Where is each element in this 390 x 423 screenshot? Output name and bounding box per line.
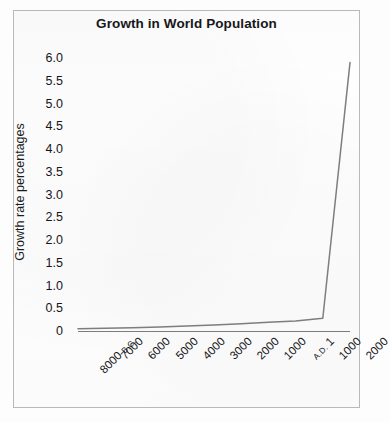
y-tick-label: 1.5: [46, 256, 63, 270]
y-tick-label: 5.0: [46, 97, 63, 111]
y-tick-label: 4.0: [46, 142, 63, 156]
y-tick-label: 2.0: [46, 233, 63, 247]
y-axis-title: Growth rate percentages: [13, 92, 27, 292]
figure-frame: [13, 10, 360, 408]
y-axis-tick-labels: 6.05.55.04.54.03.53.02.52.01.51.00.50: [33, 45, 63, 329]
chart-title: Growth in World Population: [0, 16, 373, 31]
y-tick-label: 6.0: [46, 51, 63, 65]
y-tick-label: 1.0: [46, 279, 63, 293]
y-tick-label: 3.0: [46, 188, 63, 202]
y-tick-label: 0.5: [46, 301, 63, 315]
y-tick-label: 2.5: [46, 210, 63, 224]
y-tick-label: 0: [56, 324, 63, 338]
x-tick-label: 2000: [363, 335, 390, 362]
paper-grain-overlay: [14, 11, 359, 407]
x-axis-line: [78, 331, 350, 332]
y-tick-label: 4.5: [46, 119, 63, 133]
y-tick-label: 3.5: [46, 165, 63, 179]
y-tick-label: 5.5: [46, 74, 63, 88]
